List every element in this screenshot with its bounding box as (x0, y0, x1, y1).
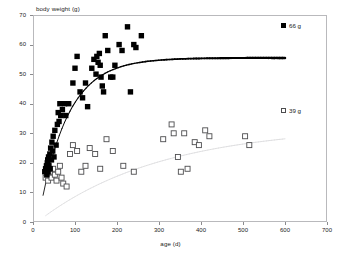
data-point-open-square (54, 178, 59, 183)
data-point-open-square (196, 143, 201, 148)
data-point-filled-square (83, 80, 88, 85)
data-point-filled-square (53, 142, 58, 147)
fit-curve-segment-39g (56, 207, 59, 209)
data-point-filled-square (50, 134, 55, 139)
data-point-filled-square (85, 104, 90, 109)
fit-curve-segment-39g (120, 174, 123, 175)
data-point-open-square (178, 169, 183, 174)
fit-curve-segment-39g (86, 190, 89, 191)
data-point-filled-square (98, 74, 103, 79)
fit-curve-segment-39g (125, 172, 128, 173)
chart-figure: body weight (g) age (d) 010203040506070 … (0, 0, 341, 254)
fit-curve-segment-66g (70, 106, 73, 111)
fit-curve-segment-66g (73, 102, 76, 106)
fit-curve-segment-39g (99, 183, 102, 184)
data-point-filled-square (101, 89, 106, 94)
data-point-filled-square (105, 48, 110, 53)
fit-curve-segment-39g (80, 192, 83, 193)
data-point-filled-square (51, 154, 56, 159)
fit-curve-segment-39g (75, 195, 78, 197)
data-point-filled-square (110, 74, 115, 79)
series-39g-points (43, 122, 252, 189)
data-point-filled-square (60, 107, 65, 112)
fit-curve-segment-66g (57, 136, 60, 144)
data-point-filled-square (128, 89, 133, 94)
data-point-filled-square (48, 166, 53, 171)
data-point-open-square (182, 131, 187, 136)
data-point-open-square (169, 122, 174, 127)
data-point-filled-square (100, 83, 105, 88)
legend-marker-filled-square (281, 23, 286, 28)
fit-curve-segment-66g (75, 98, 78, 102)
data-point-open-square (175, 154, 180, 159)
fit-curve-segment-39g (59, 205, 62, 207)
data-point-open-square (243, 134, 248, 139)
data-point-filled-square (56, 119, 61, 124)
data-point-filled-square (119, 48, 124, 53)
data-point-open-square (64, 184, 69, 189)
legend-label-39g: 39 g (289, 107, 301, 114)
data-point-open-square (104, 137, 109, 142)
fit-curve-segment-39g (64, 201, 67, 203)
fit-curve-segment-39g (117, 175, 120, 176)
data-point-open-square (131, 169, 136, 174)
fit-curve-segment-39g (123, 173, 126, 174)
data-point-open-square (98, 166, 103, 171)
data-point-filled-square (112, 63, 117, 68)
fit-curve-segment-39g (128, 171, 131, 172)
data-point-open-square (207, 134, 212, 139)
fit-curve-segment-66g (59, 129, 62, 136)
fit-curve-segment-39g (51, 210, 54, 212)
data-point-open-square (110, 149, 115, 154)
data-point-filled-square (93, 71, 98, 76)
data-point-filled-square (52, 128, 57, 133)
data-point-open-square (57, 163, 62, 168)
data-point-open-square (59, 175, 64, 180)
fit-curve-segment-39g (67, 200, 70, 202)
data-point-filled-square (74, 54, 79, 59)
fit-curve-segment-39g (46, 214, 49, 216)
fit-curve-segment-39g (54, 208, 57, 210)
fit-curve-66g (43, 58, 285, 195)
data-point-open-square (185, 166, 190, 171)
fit-curve-segment-39g (72, 197, 75, 199)
data-point-open-square (67, 151, 72, 156)
data-point-open-square (79, 169, 84, 174)
data-layer (0, 0, 341, 254)
legend-label-66g: 66 g (289, 22, 301, 29)
data-point-open-square (70, 143, 75, 148)
data-point-open-square (75, 149, 80, 154)
fit-curve-segment-39g (109, 178, 112, 179)
data-point-filled-square (72, 66, 77, 71)
fit-curve-segment-39g (112, 177, 115, 178)
data-point-filled-square (89, 66, 94, 71)
data-point-open-square (161, 137, 166, 142)
fit-curve-segment-39g (101, 182, 104, 183)
data-point-filled-square (139, 33, 144, 38)
fit-curve-segment-39g (115, 176, 118, 177)
fit-curve-segment-39g (88, 188, 91, 189)
data-point-filled-square (133, 45, 138, 50)
data-point-filled-square (77, 89, 82, 94)
fit-curve-segment-39g (78, 194, 81, 195)
fit-curve-segment-39g (104, 181, 107, 182)
data-point-open-square (56, 169, 61, 174)
data-point-open-square (121, 163, 126, 168)
fit-curve-segment-39g (107, 179, 110, 180)
fit-curve-segment-39g (141, 166, 144, 167)
fit-curve-segment-39g (91, 187, 94, 188)
data-point-filled-square (58, 113, 63, 118)
data-point-filled-square (50, 148, 55, 153)
legend-entry-39g: 39 g (281, 107, 301, 114)
fit-curve-segment-66g (83, 88, 86, 91)
data-point-filled-square (116, 42, 121, 47)
data-point-filled-square (57, 101, 62, 106)
fit-curve-segment-66g (43, 183, 46, 195)
data-point-open-square (171, 131, 176, 136)
fit-curve-segment-39g (93, 186, 96, 187)
fit-curve-segment-39g (96, 184, 99, 185)
data-point-filled-square (125, 24, 130, 29)
data-point-filled-square (103, 33, 108, 38)
data-point-open-square (93, 151, 98, 156)
legend-entry-66g: 66 g (281, 22, 301, 29)
